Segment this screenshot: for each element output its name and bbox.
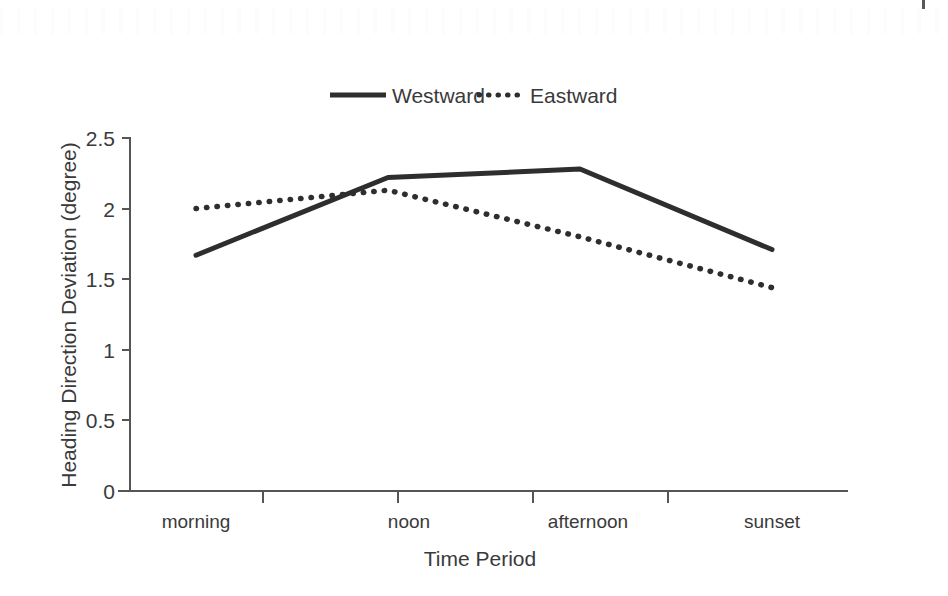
x-tick-label-sunset: sunset (744, 511, 801, 532)
x-tick-label-afternoon: afternoon (548, 511, 628, 532)
y-axis-tick-labels: 2.5 2 1.5 1 0.5 0 (86, 127, 115, 503)
y-tick-label-1-5: 1.5 (86, 268, 115, 291)
x-axis-tick-labels: morning noon afternoon sunset (162, 511, 801, 532)
x-tick-label-morning: morning (162, 511, 231, 532)
legend-label-eastward: Eastward (530, 84, 618, 107)
axis-lines (118, 137, 848, 491)
legend-item-westward: Westward (330, 84, 485, 107)
legend-item-eastward: Eastward (479, 84, 618, 107)
y-tick-label-0: 0 (103, 480, 115, 503)
y-tick-label-1: 1 (103, 339, 115, 362)
y-axis-ticks (118, 138, 130, 491)
data-series-layer (196, 169, 772, 288)
x-axis-ticks (263, 491, 668, 503)
figure-canvas: Westward Eastward 2.5 2 1. (0, 0, 948, 596)
x-tick-label-noon: noon (388, 511, 430, 532)
series-line-eastward (196, 190, 772, 287)
y-tick-label-2: 2 (103, 198, 115, 221)
x-axis-title: Time Period (424, 547, 536, 570)
series-line-westward (196, 169, 772, 255)
y-tick-label-2-5: 2.5 (86, 127, 115, 150)
legend-label-westward: Westward (392, 84, 485, 107)
line-chart: Westward Eastward 2.5 2 1. (0, 0, 948, 596)
y-axis-title: Heading Direction Deviation (degree) (57, 142, 80, 488)
chart-legend: Westward Eastward (330, 84, 618, 107)
y-tick-label-0-5: 0.5 (86, 409, 115, 432)
